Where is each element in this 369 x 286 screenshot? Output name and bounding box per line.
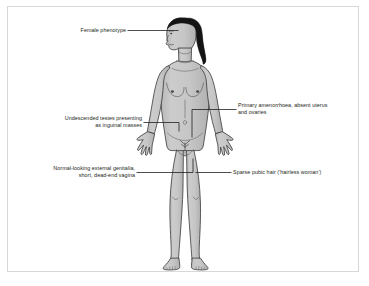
left-foot — [163, 258, 180, 270]
eye — [170, 33, 172, 35]
label-external-genitalia: Normal-looking external genitalia, short… — [10, 165, 135, 179]
label-female-phenotype: Female phenotype — [32, 27, 126, 34]
label-primary-amenorrhoea: Primary amenorrhoea, absent uterus and o… — [238, 102, 360, 116]
diagram-canvas: Female phenotype Undescended testes pres… — [0, 0, 369, 286]
right-leg — [187, 150, 201, 260]
left-hand — [137, 132, 155, 156]
right-hand — [215, 132, 233, 156]
label-undescended-testes: Undescended testes presenting as inguina… — [20, 115, 142, 129]
right-foot — [191, 258, 208, 270]
right-nipple — [196, 90, 199, 93]
left-leg — [170, 150, 184, 260]
body-group — [137, 18, 233, 270]
leader-external-genitalia — [137, 159, 193, 173]
label-sparse-pubic-hair: Sparse pubic hair ('hairless woman') — [233, 169, 361, 176]
figure-illustration — [0, 0, 369, 286]
left-nipple — [171, 90, 174, 93]
neck — [178, 48, 191, 62]
